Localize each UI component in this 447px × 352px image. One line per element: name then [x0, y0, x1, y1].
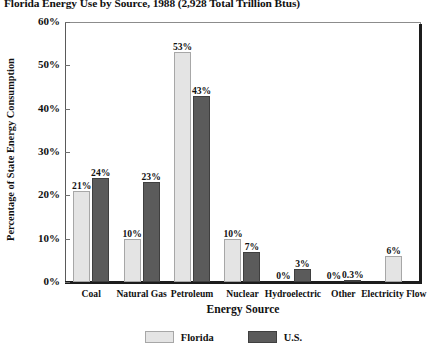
bar-us: 3% — [294, 269, 311, 282]
y-axis-tick-label: 20% — [14, 188, 60, 200]
bar-value-label: 43% — [192, 85, 211, 96]
bar-value-label: 10% — [223, 228, 242, 239]
bar-group: 21%24% — [66, 22, 116, 282]
bar-value-label: 0% — [327, 270, 341, 281]
bar-value-label: 0.3% — [342, 269, 364, 280]
legend-item: U.S. — [248, 331, 302, 343]
legend-item: Florida — [145, 331, 214, 343]
y-axis-tick-label: 0% — [14, 275, 60, 287]
y-axis-tick-label: 10% — [14, 232, 60, 244]
bar-value-label: 0% — [276, 270, 290, 281]
bar-group: 10%23% — [116, 22, 166, 282]
chart-legend: FloridaU.S. — [0, 331, 447, 343]
bar-value-label: 24% — [91, 167, 110, 178]
bar-group: 6% — [369, 22, 419, 282]
bar-value-label: 10% — [123, 228, 142, 239]
y-axis-tick-label: 50% — [14, 58, 60, 70]
bar-value-label: 21% — [72, 180, 91, 191]
bar-group: 0%3% — [268, 22, 318, 282]
bar-us: 7% — [243, 252, 260, 282]
y-axis-tick-label: 60% — [14, 15, 60, 27]
bar-florida: 21% — [73, 191, 90, 282]
x-axis-category-label: Electricity Flow — [357, 288, 431, 299]
bar-florida: 53% — [174, 52, 191, 282]
bar-us: 24% — [92, 178, 109, 282]
bar-value-label: 3% — [295, 258, 309, 269]
bar-florida: 6% — [385, 256, 402, 282]
y-axis-tick — [65, 282, 70, 283]
bar-group: 10%7% — [217, 22, 267, 282]
plot-frame-right-edge — [419, 24, 422, 284]
bar-us: 43% — [193, 96, 210, 282]
y-axis-tick-label: 40% — [14, 102, 60, 114]
dark-gray-swatch — [248, 331, 277, 343]
bar-value-label: 53% — [173, 41, 192, 52]
bar-value-label: 7% — [245, 241, 259, 252]
bar-us: 0.3% — [344, 280, 361, 282]
light-gray-swatch — [145, 331, 174, 343]
bar-chart: Florida Energy Use by Source, 1988 (2,92… — [0, 0, 447, 352]
x-axis-title: Energy Source — [65, 303, 421, 316]
legend-label: U.S. — [284, 332, 302, 343]
bar-value-label: 6% — [387, 245, 401, 256]
legend-label: Florida — [181, 332, 214, 343]
bar-group: 0%0.3% — [318, 22, 368, 282]
plot-area: 21%24%10%23%53%43%10%7%0%3%0%0.3%6% — [66, 22, 419, 282]
bar-florida: 10% — [224, 239, 241, 282]
chart-title: Florida Energy Use by Source, 1988 (2,92… — [4, 0, 444, 9]
bar-value-label: 23% — [142, 171, 161, 182]
bar-group: 53%43% — [167, 22, 217, 282]
y-axis-tick-label: 30% — [14, 145, 60, 157]
bar-us: 23% — [143, 182, 160, 282]
bar-florida: 10% — [124, 239, 141, 282]
